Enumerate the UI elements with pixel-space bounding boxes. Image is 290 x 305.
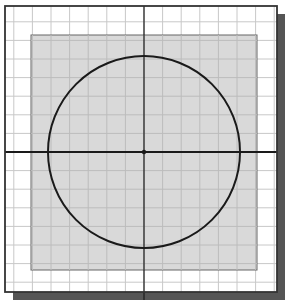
circle-center-point[interactable] [142, 150, 146, 154]
sketch-canvas [0, 0, 290, 305]
